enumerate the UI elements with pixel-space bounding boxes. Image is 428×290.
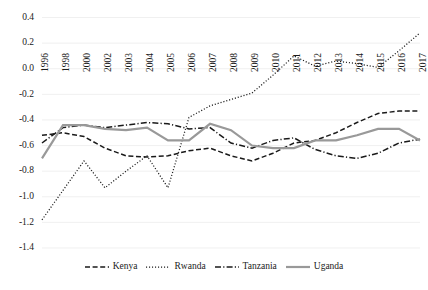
series-line-kenya bbox=[42, 111, 420, 161]
y-axis-tick-label: 0.2 bbox=[22, 37, 34, 47]
x-axis-tick-label: 2006 bbox=[187, 53, 197, 72]
x-axis-tick-label: 2003 bbox=[124, 53, 134, 72]
x-axis-tick-label: 1996 bbox=[40, 53, 50, 72]
legend-swatch-rwanda bbox=[146, 263, 170, 271]
x-axis-tick-label: 2014 bbox=[355, 53, 365, 72]
x-axis-tick-label: 2007 bbox=[208, 53, 218, 72]
legend-item-uganda: Uganda bbox=[286, 262, 344, 272]
x-axis-tick-label: 2015 bbox=[376, 53, 386, 72]
x-axis-tick-label: 2008 bbox=[229, 53, 239, 72]
y-axis-tick-label: -1.0 bbox=[19, 191, 34, 201]
x-axis-tick-label: 2017 bbox=[418, 53, 428, 72]
y-axis-tick-label: -0.8 bbox=[19, 165, 34, 175]
legend-item-kenya: Kenya bbox=[85, 262, 138, 272]
x-axis-tick-label: 2013 bbox=[334, 53, 344, 72]
x-axis-tick-label: 2004 bbox=[145, 53, 155, 72]
x-axis-tick-label: 2009 bbox=[250, 53, 260, 72]
x-axis-tick-label: 2012 bbox=[313, 53, 323, 72]
chart-legend: KenyaRwandaTanzaniaUganda bbox=[0, 262, 428, 272]
x-axis-tick-label: 1998 bbox=[61, 53, 71, 72]
legend-label: Tanzania bbox=[243, 262, 277, 272]
x-axis-tick-label: 2000 bbox=[82, 53, 92, 72]
legend-swatch-tanzania bbox=[215, 263, 239, 271]
x-axis-tick-label: 2011 bbox=[292, 53, 302, 72]
y-axis-tick-label: 0.0 bbox=[22, 63, 34, 73]
y-axis-tick-label: -1.2 bbox=[19, 217, 34, 227]
x-axis-tick-label: 2005 bbox=[166, 53, 176, 72]
legend-swatch-uganda bbox=[286, 263, 310, 271]
legend-item-tanzania: Tanzania bbox=[215, 262, 277, 272]
chart-plot-area: 0.40.20.0-0.2-0.4-0.6-0.8-1.0-1.2-1.4 19… bbox=[0, 0, 428, 290]
legend-swatch-kenya bbox=[85, 263, 109, 271]
y-axis-tick-label: -1.4 bbox=[19, 242, 34, 252]
y-axis-tick-label: -0.2 bbox=[19, 89, 34, 99]
y-axis-tick-label: -0.4 bbox=[19, 114, 34, 124]
x-axis-tick-label: 2016 bbox=[397, 53, 407, 72]
series-line-uganda bbox=[42, 124, 420, 159]
legend-label: Rwanda bbox=[174, 262, 205, 272]
legend-item-rwanda: Rwanda bbox=[146, 262, 205, 272]
legend-label: Uganda bbox=[314, 262, 344, 272]
x-axis-tick-label: 2002 bbox=[103, 53, 113, 72]
line-chart-figure: 0.40.20.0-0.2-0.4-0.6-0.8-1.0-1.2-1.4 19… bbox=[0, 0, 428, 290]
x-axis-tick-labels: 1996199820002002200320042005200620072008… bbox=[40, 53, 428, 72]
y-axis-tick-label: -0.6 bbox=[19, 140, 34, 150]
legend-label: Kenya bbox=[113, 262, 138, 272]
y-axis-tick-label: 0.4 bbox=[22, 12, 34, 22]
y-axis-tick-labels: 0.40.20.0-0.2-0.4-0.6-0.8-1.0-1.2-1.4 bbox=[19, 12, 34, 253]
